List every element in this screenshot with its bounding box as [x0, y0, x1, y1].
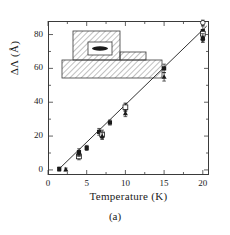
substrate-hatched-layer: [62, 60, 162, 78]
y-tick-label: 80: [21, 29, 43, 39]
figure-panel: ΔΛ (Å) Temperature (K) (a) 020406080 051…: [0, 0, 230, 235]
x-tick-label: 5: [77, 178, 97, 188]
figure-caption: (a): [0, 210, 230, 222]
data-point-open-square: [123, 105, 128, 110]
x-tick-label: 10: [115, 178, 135, 188]
y-tick-label: 0: [21, 164, 43, 174]
x-tick-label: 0: [38, 178, 58, 188]
inset-schematic: [62, 31, 162, 78]
axis-ticks: [48, 21, 209, 175]
data-point-filled-square: [57, 167, 61, 171]
data-point-open-circle: [201, 20, 206, 25]
x-axis-label: Temperature (K): [48, 190, 209, 202]
y-axis-label: ΔΛ (Å): [8, 18, 20, 98]
side-contact-hatched-step: [120, 52, 146, 60]
quantum-well-ellipse: [92, 46, 108, 50]
y-tick-label: 40: [21, 96, 43, 106]
data-point-filled-square: [162, 66, 166, 70]
data-point-filled-triangle: [63, 167, 68, 172]
y-tick-label: 60: [21, 62, 43, 72]
data-point-filled-square: [108, 120, 112, 124]
x-tick-label: 15: [154, 178, 174, 188]
data-point-filled-square: [85, 146, 89, 150]
x-tick-label: 20: [193, 178, 213, 188]
y-tick-label: 20: [21, 130, 43, 140]
